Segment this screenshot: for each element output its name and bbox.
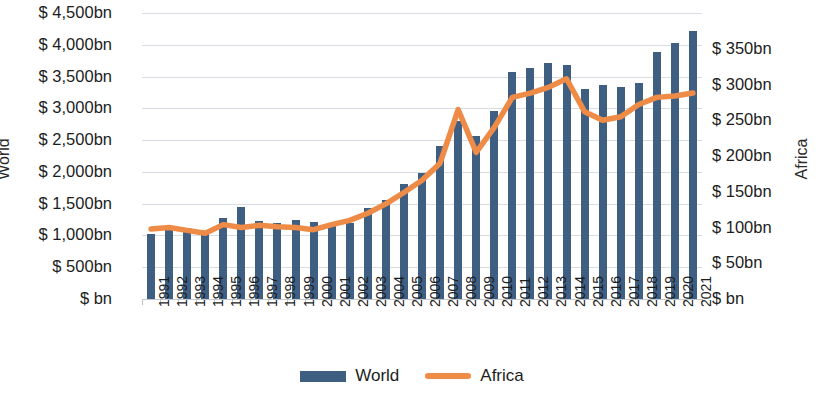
x-axis-tick-label: 2006 bbox=[427, 276, 443, 307]
x-axis-tick-label: 2018 bbox=[644, 276, 660, 307]
y-axis-right-ticks: $ 350bn$ 300bn$ 250bn$ 200bn$ 150bn$ 100… bbox=[706, 0, 824, 394]
legend-line-swatch-icon bbox=[425, 373, 471, 379]
x-axis-labels: 1991199219931994199519961997199819992000… bbox=[142, 305, 702, 365]
x-axis-tick-label: 2013 bbox=[553, 276, 569, 307]
x-axis-tick-label: 2000 bbox=[319, 276, 335, 307]
x-axis-tick-label: 2019 bbox=[662, 276, 678, 307]
legend-label: Africa bbox=[480, 366, 523, 386]
x-axis-tick-label: 2008 bbox=[463, 276, 479, 307]
x-axis-tick-label: 1994 bbox=[210, 276, 226, 307]
x-axis-tick-label: 2020 bbox=[680, 276, 696, 307]
y-axis-left-tick-label: $ 4,500bn bbox=[39, 3, 112, 22]
x-axis-tick-label: 2002 bbox=[355, 276, 371, 307]
legend-item-world[interactable]: World bbox=[300, 366, 399, 386]
legend-bar-swatch-icon bbox=[300, 371, 346, 382]
x-axis-tick-label: 2009 bbox=[481, 276, 497, 307]
x-axis-tick-label: 2001 bbox=[337, 276, 353, 307]
x-axis-tick-label: 1998 bbox=[282, 276, 298, 307]
x-axis-tick-label: 2012 bbox=[535, 276, 551, 307]
y-axis-right-tick-label: $ 100bn bbox=[712, 218, 772, 237]
y-axis-left-ticks: $ 4,500bn$ 4,000bn$ 3,500bn$ 3,000bn$ 2,… bbox=[0, 0, 120, 394]
y-axis-left-tick-label: $ 1,500bn bbox=[39, 194, 112, 213]
y-axis-left-tick-label: $ 2,500bn bbox=[39, 130, 112, 149]
y-axis-left-tick-label: $ 2,000bn bbox=[39, 162, 112, 181]
x-axis-tick-label: 2021 bbox=[698, 276, 714, 307]
x-axis-tick-label: 1995 bbox=[228, 276, 244, 307]
x-axis-tick-label: 2015 bbox=[590, 276, 606, 307]
x-axis-tick-label: 2003 bbox=[373, 276, 389, 307]
x-axis-tick-label: 2010 bbox=[499, 276, 515, 307]
y-axis-left-tick-label: $ 3,000bn bbox=[39, 98, 112, 117]
x-axis-tick-label: 2016 bbox=[608, 276, 624, 307]
y-axis-left-tick-label: $ bn bbox=[80, 289, 112, 308]
x-axis-tick-label: 1999 bbox=[301, 276, 317, 307]
x-axis-tick-label: 1996 bbox=[246, 276, 262, 307]
x-axis-tick-label: 2004 bbox=[391, 276, 407, 307]
y-axis-right-tick-label: $ bn bbox=[712, 289, 744, 308]
x-axis-tick-label: 2017 bbox=[626, 276, 642, 307]
dual-axis-chart: World Africa $ 4,500bn$ 4,000bn$ 3,500bn… bbox=[0, 0, 824, 394]
y-axis-right-tick-label: $ 350bn bbox=[712, 39, 772, 58]
y-axis-left-tick-label: $ 4,000bn bbox=[39, 35, 112, 54]
line-series-africa bbox=[142, 13, 702, 299]
chart-legend: WorldAfrica bbox=[0, 366, 824, 386]
x-axis-tick-label: 2005 bbox=[409, 276, 425, 307]
x-axis-tick-label: 2014 bbox=[572, 276, 588, 307]
y-axis-right-tick-label: $ 250bn bbox=[712, 110, 772, 129]
x-axis-tick-label: 1992 bbox=[174, 276, 190, 307]
y-axis-left-tick-label: $ 1,000bn bbox=[39, 225, 112, 244]
y-axis-left-tick-label: $ 3,500bn bbox=[39, 67, 112, 86]
x-axis-tick-label: 1997 bbox=[264, 276, 280, 307]
x-axis-tick-label: 1991 bbox=[156, 276, 172, 307]
x-axis-tick-label: 1993 bbox=[192, 276, 208, 307]
y-axis-left-tick-label: $ 500bn bbox=[52, 257, 112, 276]
x-axis-tick-label: 2007 bbox=[445, 276, 461, 307]
y-axis-right-tick-label: $ 50bn bbox=[712, 253, 762, 272]
y-axis-right-tick-label: $ 200bn bbox=[712, 146, 772, 165]
legend-label: World bbox=[355, 366, 399, 386]
x-axis-tick-label: 2011 bbox=[517, 277, 533, 307]
plot-area bbox=[142, 13, 702, 299]
y-axis-right-tick-label: $ 300bn bbox=[712, 75, 772, 94]
y-axis-right-tick-label: $ 150bn bbox=[712, 182, 772, 201]
legend-item-africa[interactable]: Africa bbox=[425, 366, 523, 386]
